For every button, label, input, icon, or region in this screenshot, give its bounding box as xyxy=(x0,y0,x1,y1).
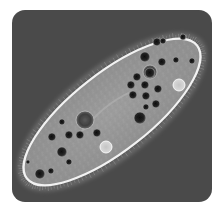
food-vacuole xyxy=(48,168,54,174)
food-vacuole xyxy=(152,100,160,108)
food-vacuole xyxy=(158,58,166,66)
food-vacuole xyxy=(35,169,45,179)
food-vacuole xyxy=(153,38,161,46)
large-food-vacuole xyxy=(76,111,94,129)
food-vacuole xyxy=(76,131,84,139)
food-vacuole xyxy=(66,159,72,165)
contractile-vacuole xyxy=(100,141,112,153)
food-vacuole xyxy=(142,92,150,100)
food-vacuole xyxy=(154,85,162,93)
micrograph-canvas xyxy=(0,0,224,214)
food-vacuole xyxy=(173,57,179,63)
food-vacuole xyxy=(134,112,146,124)
paramecium-image: Paramecium (ciliate protozoan) micrograp… xyxy=(0,0,224,214)
food-vacuole xyxy=(57,147,67,157)
food-vacuole xyxy=(133,73,141,81)
food-vacuole xyxy=(48,133,56,141)
food-vacuole xyxy=(180,34,186,40)
food-vacuole xyxy=(127,81,135,89)
food-vacuole xyxy=(65,131,73,139)
food-vacuole xyxy=(141,81,149,89)
food-vacuole xyxy=(143,104,149,110)
food-vacuole xyxy=(129,91,137,99)
food-vacuole xyxy=(145,68,155,78)
food-vacuole xyxy=(93,129,101,137)
contractile-vacuole xyxy=(173,79,185,91)
food-vacuole xyxy=(26,160,30,164)
food-vacuole xyxy=(59,119,65,125)
food-vacuole xyxy=(140,52,150,62)
food-vacuole xyxy=(160,38,166,44)
food-vacuole xyxy=(189,58,195,64)
